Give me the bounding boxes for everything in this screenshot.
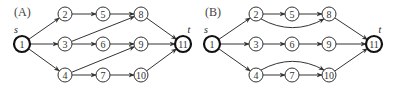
node-label: 7 <box>290 70 295 81</box>
node-label: 8 <box>139 9 144 20</box>
node-6: 6 <box>96 37 110 51</box>
flow-network-svg: (A)1234567891011st(B)1234567891011st <box>0 0 398 90</box>
node-5: 5 <box>285 7 299 21</box>
edge-1-2 <box>29 18 60 39</box>
panel-a: (A)1234567891011st <box>14 5 191 82</box>
sink-label: t <box>188 24 191 35</box>
edge-10-11 <box>147 49 177 71</box>
node-11: 11 <box>366 36 382 52</box>
source-label: s <box>204 24 208 35</box>
node-10: 10 <box>322 68 336 82</box>
node-label: 9 <box>139 39 144 50</box>
node-label: 6 <box>290 39 295 50</box>
node-4: 4 <box>249 68 263 82</box>
edge-1-4 <box>28 49 59 71</box>
node-7: 7 <box>285 68 299 82</box>
node-3: 3 <box>58 37 72 51</box>
node-2: 2 <box>58 7 72 21</box>
node-2: 2 <box>249 7 263 21</box>
node-label: 4 <box>63 70 68 81</box>
edge-10-11 <box>335 49 368 71</box>
node-label: 3 <box>254 39 259 50</box>
node-label: 9 <box>327 39 332 50</box>
node-8: 8 <box>134 7 148 21</box>
node-8: 8 <box>322 7 336 21</box>
node-label: 5 <box>290 9 295 20</box>
node-5: 5 <box>96 7 110 21</box>
node-9: 9 <box>134 37 148 51</box>
node-7: 7 <box>96 68 110 82</box>
node-label: 2 <box>63 9 68 20</box>
node-label: 4 <box>254 70 259 81</box>
node-label: 1 <box>210 39 215 50</box>
node-label: 7 <box>101 70 106 81</box>
node-6: 6 <box>285 37 299 51</box>
node-label: 11 <box>369 39 379 50</box>
edge-1-2 <box>219 18 251 40</box>
node-label: 2 <box>254 9 259 20</box>
edge-8-11 <box>147 18 177 39</box>
sink-label: t <box>379 24 382 35</box>
source-label: s <box>14 24 18 35</box>
node-1: 1 <box>14 36 30 52</box>
panel-label: (B) <box>205 5 221 19</box>
node-label: 6 <box>101 39 106 50</box>
node-label: 1 <box>20 39 25 50</box>
edge-8-11 <box>335 18 368 40</box>
node-4: 4 <box>58 68 72 82</box>
node-label: 3 <box>63 39 68 50</box>
node-3: 3 <box>249 37 263 51</box>
node-9: 9 <box>322 37 336 51</box>
node-label: 10 <box>136 70 146 81</box>
panel-label: (A) <box>14 5 31 19</box>
node-label: 5 <box>101 9 106 20</box>
node-label: 10 <box>324 70 334 81</box>
node-label: 8 <box>327 9 332 20</box>
node-1: 1 <box>204 36 220 52</box>
node-10: 10 <box>134 68 148 82</box>
panel-b: (B)1234567891011st <box>204 5 382 82</box>
node-label: 11 <box>178 39 188 50</box>
network-diagram: (A)1234567891011st(B)1234567891011st <box>0 0 398 90</box>
edge-1-4 <box>219 49 251 71</box>
node-11: 11 <box>175 36 191 52</box>
